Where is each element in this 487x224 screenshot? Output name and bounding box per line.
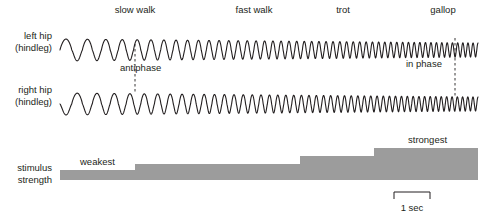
- stimulus-step-4: [374, 148, 478, 180]
- annotation-weakest: weakest: [80, 156, 115, 168]
- stimulus-step-2: [135, 164, 300, 180]
- stimulus-step-3: [300, 156, 374, 180]
- stimulus-step-1: [60, 170, 135, 180]
- scale-bar-bracket: [394, 192, 430, 199]
- gait-stimulus-figure: slow walk fast walk trot gallop left hip…: [0, 0, 487, 224]
- annotation-strongest: strongest: [408, 134, 447, 146]
- scale-bar-label: 1 sec: [401, 202, 424, 214]
